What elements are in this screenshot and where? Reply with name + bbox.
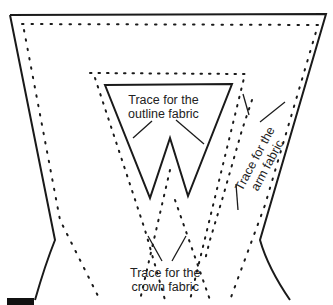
crown-fabric-label: Trace for the crown fabric bbox=[130, 266, 200, 294]
pattern-diagram bbox=[0, 0, 333, 305]
outer-dotted-left bbox=[24, 30, 100, 300]
crown-label-line2: crown fabric bbox=[130, 280, 200, 294]
outline-label-line2: outline fabric bbox=[128, 107, 199, 121]
outer-outline-left bbox=[10, 15, 55, 300]
outline-fabric-label: Trace for the outline fabric bbox=[128, 93, 199, 121]
crown-label-line1: Trace for the bbox=[130, 266, 200, 280]
corner-marker bbox=[7, 298, 34, 305]
outline-label-line1: Trace for the bbox=[128, 93, 199, 107]
